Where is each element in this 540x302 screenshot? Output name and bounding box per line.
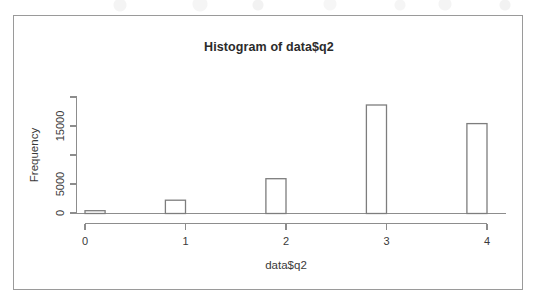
histogram-bar-bin-2 <box>266 179 286 214</box>
figure-frame: Histogram of data$q2 0 5000 15000 Freque… <box>13 15 523 290</box>
x-tick-label-1: 1 <box>182 235 188 247</box>
scan-artifact-band <box>0 0 540 14</box>
histogram-bar-bin-1 <box>165 200 185 213</box>
screenshot-canvas: Histogram of data$q2 0 5000 15000 Freque… <box>0 0 540 302</box>
y-tick-label-0: 0 <box>54 210 66 216</box>
histogram-bar-bin-0 <box>85 211 105 214</box>
x-tick-label-2: 2 <box>283 235 289 247</box>
x-tick-label-4: 4 <box>484 235 490 247</box>
x-tick-label-0: 0 <box>82 235 88 247</box>
histogram-bars <box>85 105 487 214</box>
x-tick-label-3: 3 <box>383 235 389 247</box>
y-axis: 0 5000 15000 Frequency <box>28 97 77 216</box>
y-axis-title: Frequency <box>28 128 40 183</box>
histogram-bar-bin-3 <box>366 105 386 214</box>
x-axis: 0 1 2 3 4 data$q2 <box>82 224 490 272</box>
y-tick-label-5000: 5000 <box>54 172 66 196</box>
y-tick-label-15000: 15000 <box>54 111 66 142</box>
histogram-plot: 0 5000 15000 Frequency <box>14 16 524 291</box>
x-axis-title: data$q2 <box>265 259 307 271</box>
histogram-bar-bin-4 <box>467 124 487 214</box>
